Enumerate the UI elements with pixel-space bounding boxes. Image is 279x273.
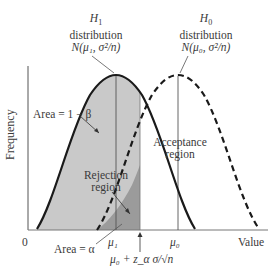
h1-label: H1 distribution N(μ₁, σ²/n)	[60, 12, 132, 53]
origin-label: 0	[22, 236, 28, 248]
h1-line2: distribution	[60, 29, 132, 41]
area-alpha-label: Area = α	[54, 243, 95, 255]
rejection-label: Rejection region	[78, 169, 134, 193]
y-axis-label: Frequency	[3, 109, 18, 160]
h0-title: H	[200, 12, 208, 24]
x-axis-label: Value	[238, 236, 264, 248]
h1-pointer	[92, 56, 114, 73]
h0-sub: 0	[208, 18, 212, 27]
h0-pointer	[180, 56, 188, 73]
critical-value-label: μ₀ + z_α σ/√n	[110, 253, 173, 265]
acceptance-line1: Acceptance	[150, 136, 210, 148]
mu0-label: μ₀	[170, 236, 180, 248]
h0-line3: N(μ₀, σ²/n)	[170, 41, 242, 53]
h0-line2: distribution	[170, 29, 242, 41]
acceptance-line2: region	[150, 148, 210, 160]
h1-title: H	[90, 12, 98, 24]
area-power-label: Area = 1 − β	[33, 108, 91, 120]
acceptance-label: Acceptance region	[150, 136, 210, 160]
h0-label: H0 distribution N(μ₀, σ²/n)	[170, 12, 242, 53]
rejection-line1: Rejection	[78, 169, 134, 181]
h1-sub: 1	[98, 18, 102, 27]
mu1-label: μ₁	[108, 236, 118, 248]
h1-line3: N(μ₁, σ²/n)	[60, 41, 132, 53]
rejection-line2: region	[78, 181, 134, 193]
critical-arrowhead	[138, 232, 143, 237]
